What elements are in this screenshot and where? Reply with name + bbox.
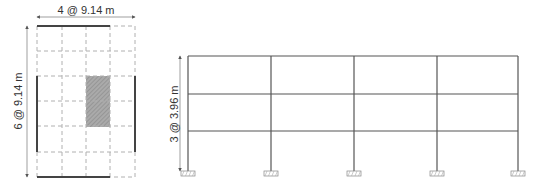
- plan-height-dimension-label: 6 @ 9.14 m: [12, 72, 24, 129]
- fixed-support: [264, 171, 278, 176]
- fixed-support: [347, 171, 361, 176]
- frame-elevation: [180, 56, 525, 176]
- structural-diagram: 4 @ 9.14 m 6 @ 9.14 m 3 @ 3.96 m: [0, 0, 539, 188]
- plan-width-dimension-label: 4 @ 9.14 m: [57, 4, 114, 16]
- fixed-support: [430, 171, 444, 176]
- floor-plan: [27, 17, 135, 177]
- fixed-support: [181, 171, 195, 176]
- story-height-dimension-label: 3 @ 3.96 m: [168, 85, 180, 142]
- fixed-support: [511, 171, 525, 176]
